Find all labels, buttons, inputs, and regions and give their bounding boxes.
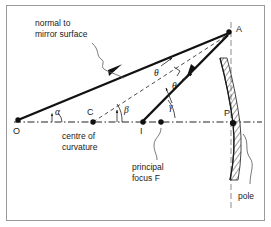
pole-leader	[243, 134, 252, 184]
point-I-dot	[140, 119, 145, 124]
normal-label-leader	[92, 43, 124, 78]
normal-label-line1: normal to	[35, 18, 71, 28]
angle-label-gamma: γ	[169, 102, 173, 112]
point-F-dot	[158, 119, 163, 124]
figure-frame: O C I P A α β γ θ θ normal to mirror sur…	[0, 0, 271, 227]
angle-label-beta: β	[123, 105, 129, 115]
point-O-dot	[15, 117, 20, 122]
normal-label-line2: mirror surface	[35, 29, 88, 39]
point-A-dot	[226, 29, 231, 34]
principal-focus-label-line1: principal	[132, 162, 164, 172]
principal-focus-label-line2: focus F	[132, 173, 160, 183]
point-P-dot	[230, 120, 236, 126]
centre-of-curvature-label-line2: curvature	[62, 142, 98, 152]
centre-of-curvature-label-line1: centre of	[62, 131, 96, 141]
point-label-P: P	[224, 108, 230, 118]
point-label-C: C	[87, 107, 94, 117]
principal-focus-leader	[154, 128, 161, 160]
ray-diagram-canvas: O C I P A α β γ θ θ normal to mirror sur…	[0, 0, 271, 227]
angle-label-theta-incident: θ	[154, 68, 159, 78]
normal-line-CA	[93, 34, 229, 122]
theta-separator-tick	[174, 67, 180, 76]
point-label-A: A	[236, 24, 242, 34]
angle-label-theta-reflected: θ	[172, 81, 177, 91]
pole-label: pole	[238, 191, 254, 201]
point-C-dot	[90, 119, 95, 124]
angle-beta-arc	[117, 104, 122, 122]
point-label-I: I	[140, 126, 143, 136]
point-label-O: O	[13, 126, 20, 136]
